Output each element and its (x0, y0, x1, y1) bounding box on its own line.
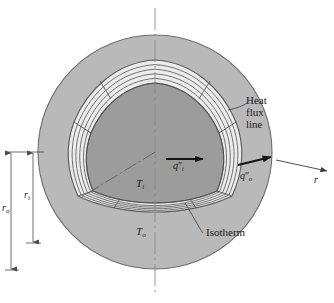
outer-radius-subscript: o (6, 207, 10, 215)
outer-flux-label: q″o (240, 171, 252, 183)
radial-axis-arrow (276, 160, 327, 171)
isotherm-label: Isotherm (206, 227, 245, 239)
outer-flux-subscript: o (249, 175, 253, 183)
inner-temperature-subscript: i (142, 183, 144, 191)
dimension-lines (5, 152, 44, 270)
diagram-canvas (0, 0, 334, 303)
inner-temperature-label: Ti (136, 178, 144, 191)
inner-flux-subscript: i (182, 165, 184, 173)
inner-flux-label: q″i (173, 161, 184, 173)
outer-temperature-subscript: o (142, 231, 146, 239)
inner-radius-label: ri (24, 190, 30, 202)
inner-radius-subscript: i (28, 194, 30, 202)
radial-axis-label: r (314, 175, 318, 186)
heat-flux-plot-figure: Heat flux line Isotherm Ti To q″i q″o r … (0, 0, 334, 303)
heat-flux-line-label-row3: line (246, 119, 267, 131)
outer-radius-label: ro (2, 203, 9, 215)
heat-flux-line-label: Heat flux line (246, 95, 267, 131)
radial-axis-symbol: r (314, 174, 318, 185)
outer-temperature-label: To (136, 226, 146, 239)
heat-flux-line-label-row2: flux (246, 107, 267, 119)
